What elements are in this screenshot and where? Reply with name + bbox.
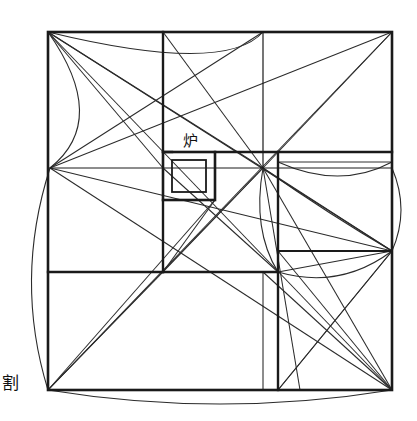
canvas-background — [0, 0, 417, 421]
hearth-label: 炉 — [183, 132, 198, 150]
margin-note-label: 割 — [2, 373, 19, 393]
floor-plan-svg: 炉 割 — [0, 0, 417, 421]
diagram-root: 炉 割 — [0, 0, 417, 421]
